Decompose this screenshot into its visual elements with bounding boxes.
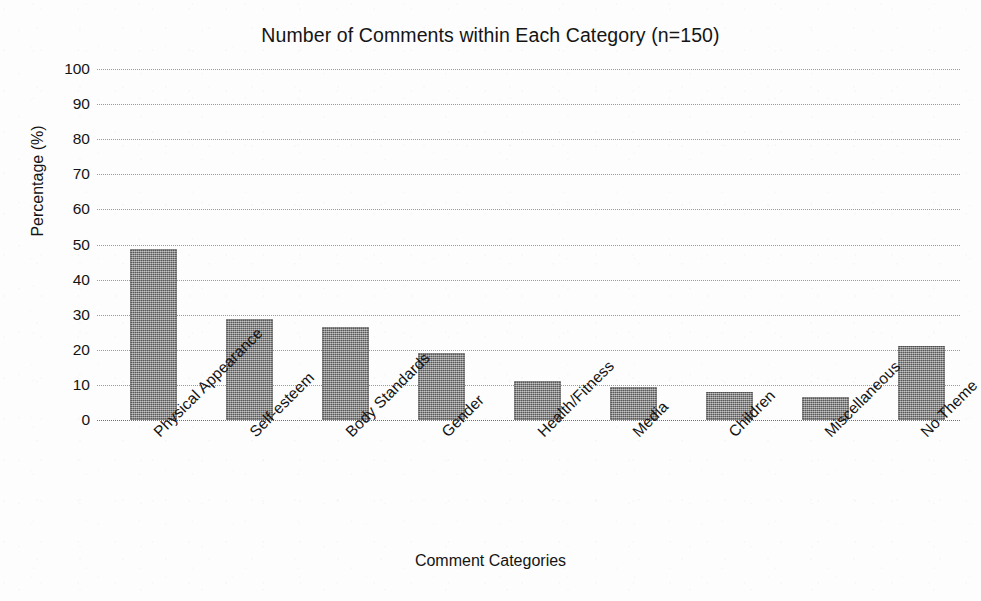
y-tick-label-50: 50 <box>38 236 90 254</box>
gridline-80 <box>97 139 960 140</box>
gridline-60 <box>97 209 960 210</box>
y-tick-label-100: 100 <box>38 60 90 78</box>
y-tick-label-40: 40 <box>38 271 90 289</box>
gridline-70 <box>97 174 960 175</box>
y-tick-label-90: 90 <box>38 95 90 113</box>
chart-title: Number of Comments within Each Category … <box>0 24 981 47</box>
y-tick-label-0: 0 <box>38 411 90 429</box>
gridline-50 <box>97 245 960 246</box>
gridline-100 <box>97 69 960 70</box>
y-tick-label-70: 70 <box>38 165 90 183</box>
y-tick-label-30: 30 <box>38 306 90 324</box>
y-tick-label-60: 60 <box>38 200 90 218</box>
gridline-40 <box>97 280 960 281</box>
y-tick-label-80: 80 <box>38 130 90 148</box>
bar <box>130 249 177 420</box>
y-axis-tick-labels: 1009080706050403020100 <box>30 69 90 420</box>
y-tick-label-20: 20 <box>38 341 90 359</box>
gridline-30 <box>97 315 960 316</box>
gridline-90 <box>97 104 960 105</box>
bar-chart-figure: Number of Comments within Each Category … <box>0 0 981 601</box>
x-axis-category-labels: Physical AppearanceSelf-esteemBody Stand… <box>97 420 960 545</box>
x-axis-title: Comment Categories <box>0 552 981 570</box>
y-tick-label-10: 10 <box>38 376 90 394</box>
